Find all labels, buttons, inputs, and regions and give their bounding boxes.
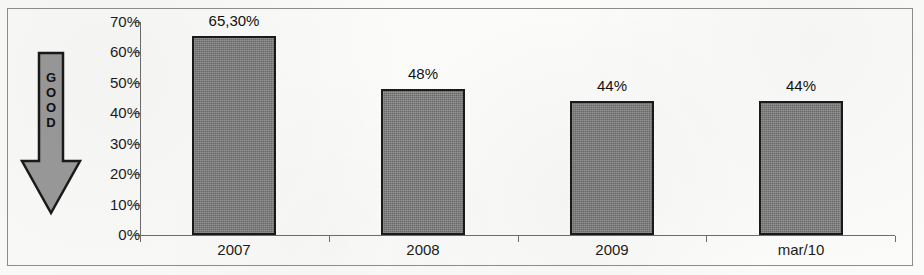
x-axis-tick — [706, 236, 707, 242]
y-axis-label: 20% — [94, 165, 140, 182]
x-axis-tick — [140, 236, 141, 242]
x-axis-category-label: mar/10 — [741, 241, 861, 258]
bar-2009 — [570, 101, 654, 235]
x-axis-tick — [518, 236, 519, 242]
x-axis-tick — [895, 236, 896, 242]
y-axis-label: 50% — [94, 74, 140, 91]
y-axis-label: 10% — [94, 196, 140, 213]
x-axis-category-label: 2007 — [174, 241, 294, 258]
y-axis-label: 60% — [94, 43, 140, 60]
bar-2007 — [192, 36, 276, 235]
bar-2008 — [381, 89, 465, 235]
y-axis-label: 0% — [94, 226, 140, 243]
x-axis-category-label: 2008 — [363, 241, 483, 258]
chart-screenshot: 0%10%20%30%40%50%60%70% 65,30%200748%200… — [0, 0, 924, 275]
good-direction-arrow — [20, 51, 82, 216]
y-axis-label: 30% — [94, 135, 140, 152]
bar-value-label: 65,30% — [174, 12, 294, 29]
x-axis-tick — [329, 236, 330, 242]
y-axis-label: 70% — [94, 13, 140, 30]
y-axis-label: 40% — [94, 104, 140, 121]
bar-value-label: 44% — [552, 77, 672, 94]
bar-mar-10 — [759, 101, 843, 235]
x-axis-category-label: 2009 — [552, 241, 672, 258]
bar-value-label: 48% — [363, 65, 483, 82]
y-axis-line — [140, 22, 141, 236]
bar-value-label: 44% — [741, 77, 861, 94]
bar-chart-plot-area: 0%10%20%30%40%50%60%70% 65,30%200748%200… — [0, 0, 924, 275]
